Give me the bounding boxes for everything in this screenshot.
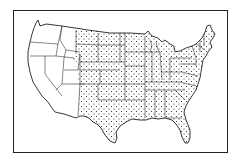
stippled-region (0, 0, 242, 164)
us-map (0, 0, 242, 164)
